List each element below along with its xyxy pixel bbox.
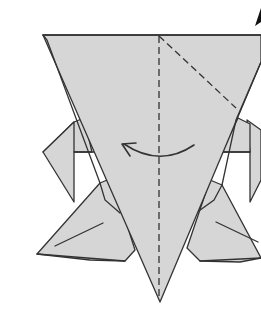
push-arrow-icon [255,8,261,26]
origami-diagram [0,0,261,319]
